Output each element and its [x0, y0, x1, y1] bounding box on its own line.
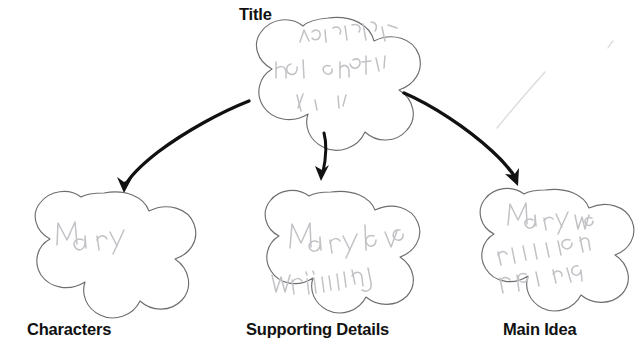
graphic-organizer-worksheet: Title Characters Supporting Details Main…: [0, 0, 643, 349]
arrow-to-characters: [117, 101, 249, 193]
arrow-to-supporting-details-head: [315, 165, 329, 181]
cloud-characters-outline: [35, 191, 196, 317]
cloud-supporting-details: [265, 190, 420, 313]
main-idea-label: Main Idea: [503, 320, 576, 339]
cloud-characters: [35, 191, 196, 317]
arrow-to-characters-head: [117, 177, 132, 193]
background-smudge-corner: [608, 41, 613, 48]
page-title-label: Title: [239, 5, 272, 24]
background-smudge-right: [497, 72, 545, 128]
worksheet-canvas: [0, 0, 643, 349]
cloud-title-outline: [257, 17, 421, 150]
arrow-to-main-idea: [404, 93, 519, 186]
cloud-title: [257, 17, 421, 150]
supporting-details-label: Supporting Details: [246, 320, 389, 339]
cloud-supporting-details-outline: [265, 190, 420, 313]
cloud-main-idea: [480, 188, 634, 311]
characters-label: Characters: [27, 320, 111, 339]
